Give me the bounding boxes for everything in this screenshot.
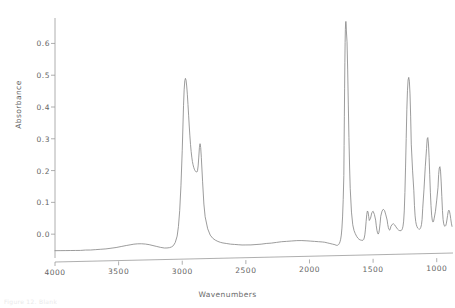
x-tick-label: 4000 [31,268,79,277]
x-tick-label: 3000 [158,267,206,276]
x-axis-title: Wavenumbers [0,290,455,299]
y-tick-label: 0.0 [10,230,50,239]
y-tick-label: 0.6 [10,39,50,48]
y-axis-title: Absorbance [14,60,23,150]
x-axis-line [55,253,453,262]
figure-caption: Figure 12. Blank [4,298,57,307]
x-tick-label: 1500 [349,265,397,274]
ir-spectrum-figure: 0.00.10.20.30.40.50.6 400035003000250020… [0,0,455,308]
x-tick-label: 2500 [222,266,270,275]
spectrum-plot-canvas [0,0,455,308]
x-tick-label: 1000 [413,264,455,273]
y-tick-label: 0.2 [10,166,50,175]
x-tick-label: 2000 [285,265,333,274]
y-tick-label: 0.1 [10,198,50,207]
absorbance-trace [55,21,452,250]
y-tick-marks [51,43,55,234]
x-tick-label: 3500 [95,267,143,276]
